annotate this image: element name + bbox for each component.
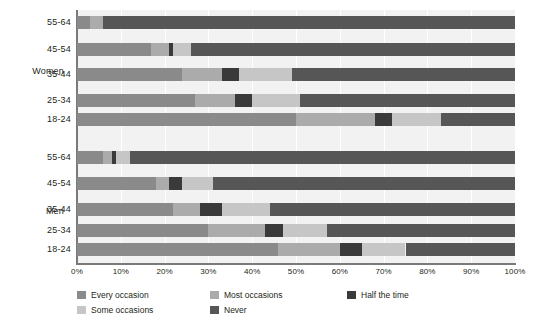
bar-segment-most-occasions: [151, 43, 169, 56]
chart-legend: Every occasionMost occasionsHalf the tim…: [77, 290, 517, 330]
legend-label: Every occasion: [91, 290, 149, 300]
x-tick-60: 60%: [320, 267, 360, 276]
bar-segment-half-the-time: [340, 243, 362, 256]
bar-segment-some-occasions: [116, 151, 129, 164]
legend-swatch-icon: [347, 291, 356, 299]
x-tick-70: 70%: [364, 267, 404, 276]
x-tick-10: 10%: [101, 267, 141, 276]
legend-swatch-icon: [210, 291, 219, 299]
bar-segment-never: [300, 94, 515, 107]
bar-women-35-44: [77, 68, 515, 81]
legend-swatch-icon: [210, 306, 219, 314]
stacked-bar-chart: Women Men 55-6445-5435-4425-3418-2455-64…: [0, 0, 546, 336]
category-label-women-45-54: 45-54: [28, 44, 71, 54]
bar-women-55-64: [77, 16, 515, 29]
bar-segment-every-occasion: [77, 16, 90, 29]
legend-item-every-occasion[interactable]: Every occasion: [77, 290, 149, 300]
legend-item-most-occasions[interactable]: Most occasions: [210, 290, 283, 300]
category-label-men-55-64: 55-64: [28, 152, 71, 162]
bar-segment-every-occasion: [77, 68, 182, 81]
category-label-women-25-34: 25-34: [28, 95, 71, 105]
bar-segment-half-the-time: [169, 177, 182, 190]
bar-segment-never: [292, 68, 515, 81]
bar-segment-most-occasions: [156, 177, 169, 190]
bar-segment-half-the-time: [235, 94, 253, 107]
x-tick-40: 40%: [232, 267, 272, 276]
bar-segment-half-the-time: [265, 224, 283, 237]
bar-segment-every-occasion: [77, 151, 103, 164]
x-tick-0: 0%: [57, 267, 97, 276]
bar-segment-some-occasions: [252, 94, 300, 107]
bar-segment-never: [213, 177, 515, 190]
legend-label: Some occasions: [91, 305, 153, 315]
x-tick-20: 20%: [145, 267, 185, 276]
bar-segment-never: [327, 224, 515, 237]
bar-women-18-24: [77, 113, 515, 126]
bar-segment-every-occasion: [77, 94, 195, 107]
bar-segment-half-the-time: [375, 113, 393, 126]
bar-segment-never: [103, 16, 515, 29]
bar-segment-never: [441, 113, 515, 126]
bar-segment-most-occasions: [296, 113, 375, 126]
bar-segment-every-occasion: [77, 177, 156, 190]
x-axis-line: [76, 263, 516, 265]
bar-segment-every-occasion: [77, 113, 296, 126]
bar-segment-every-occasion: [77, 203, 173, 216]
bar-women-45-54: [77, 43, 515, 56]
legend-label: Never: [224, 305, 247, 315]
category-label-men-45-54: 45-54: [28, 178, 71, 188]
bar-segment-most-occasions: [173, 203, 199, 216]
legend-item-some-occasions[interactable]: Some occasions: [77, 305, 153, 315]
bar-men-55-64: [77, 151, 515, 164]
bar-segment-half-the-time: [222, 68, 240, 81]
legend-swatch-icon: [77, 291, 86, 299]
bar-segment-every-occasion: [77, 43, 151, 56]
legend-label: Half the time: [361, 290, 409, 300]
x-tick-50: 50%: [276, 267, 316, 276]
bar-segment-never: [270, 203, 515, 216]
bar-men-35-44: [77, 203, 515, 216]
legend-label: Most occasions: [224, 290, 283, 300]
bar-segment-some-occasions: [222, 203, 270, 216]
bar-segment-some-occasions: [283, 224, 327, 237]
category-label-women-18-24: 18-24: [28, 114, 71, 124]
bar-segment-never: [130, 151, 515, 164]
bar-segment-never: [191, 43, 515, 56]
bar-segment-never: [406, 243, 516, 256]
gridline: [515, 10, 516, 263]
bar-segment-most-occasions: [103, 151, 112, 164]
bar-segment-most-occasions: [90, 16, 103, 29]
bar-segment-some-occasions: [239, 68, 292, 81]
category-label-men-35-44: 35-44: [28, 204, 71, 214]
bar-segment-some-occasions: [182, 177, 213, 190]
x-tick-100: 100%: [495, 267, 535, 276]
bar-segment-half-the-time: [200, 203, 222, 216]
bar-women-25-34: [77, 94, 515, 107]
bar-segment-most-occasions: [195, 94, 234, 107]
category-label-women-35-44: 35-44: [28, 69, 71, 79]
category-label-men-25-34: 25-34: [28, 225, 71, 235]
category-label-men-18-24: 18-24: [28, 244, 71, 254]
x-tick-30: 30%: [188, 267, 228, 276]
bar-segment-every-occasion: [77, 243, 278, 256]
bar-men-25-34: [77, 224, 515, 237]
bar-segment-every-occasion: [77, 224, 208, 237]
bar-men-18-24: [77, 243, 515, 256]
bar-segment-some-occasions: [392, 113, 440, 126]
bar-men-45-54: [77, 177, 515, 190]
bar-segment-most-occasions: [278, 243, 339, 256]
category-label-women-55-64: 55-64: [28, 17, 71, 27]
legend-item-never[interactable]: Never: [210, 305, 247, 315]
legend-swatch-icon: [77, 306, 86, 314]
x-tick-80: 80%: [407, 267, 447, 276]
x-tick-90: 90%: [451, 267, 491, 276]
bar-segment-some-occasions: [362, 243, 406, 256]
bar-segment-some-occasions: [173, 43, 191, 56]
bar-segment-most-occasions: [182, 68, 221, 81]
legend-item-half-the-time[interactable]: Half the time: [347, 290, 409, 300]
bar-segment-most-occasions: [208, 224, 265, 237]
